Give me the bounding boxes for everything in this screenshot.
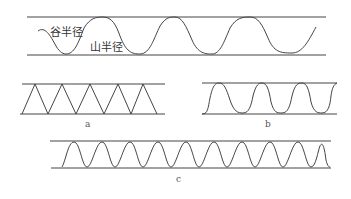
a-zigzag bbox=[22, 84, 157, 114]
peak-radius-label: 山半径 bbox=[90, 38, 123, 54]
panel-a-label: a bbox=[85, 119, 90, 129]
c-wave bbox=[62, 142, 330, 167]
b-wave bbox=[202, 83, 337, 114]
panel-b-label: b bbox=[265, 119, 271, 129]
panel-c-label: c bbox=[176, 174, 181, 184]
valley-radius-label: 谷半径 bbox=[50, 23, 83, 39]
